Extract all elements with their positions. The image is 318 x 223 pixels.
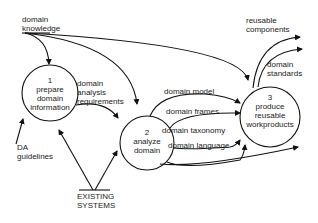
process-1-label: 1 prepare domain information [22,76,78,112]
process-2-line2: domain [120,146,174,155]
da-guidelines-line1: DA [17,143,53,152]
flow-existing-to-2 [95,151,117,190]
domain-frames-label: domain frames [166,107,219,116]
existing-systems-label: EXISTING SYSTEMS [77,192,113,210]
domain-knowledge-label: domain knowledge [22,15,60,33]
requirements-line3: requirements [77,97,124,106]
flow-existing-to-1 [59,130,93,190]
domain-knowledge-line2: knowledge [22,24,60,33]
domain-standards-line1: domain [267,60,302,69]
domain-knowledge-line1: domain [22,15,60,24]
reusable-components-line2: components [246,25,290,34]
existing-systems-line1: EXISTING [77,192,113,201]
reusable-components-line1: reusable [246,16,290,25]
da-guidelines-label: DA guidelines [17,143,53,161]
process-3-line2: reusable [240,111,300,120]
da-guidelines-line2: guidelines [17,152,53,161]
flow-knowledge-to-3 [25,33,248,80]
domain-taxonomy-label: domain taxonomy [162,126,225,135]
domain-standards-line2: standards [267,69,302,78]
process-1-line1: prepare [22,85,78,94]
requirements-line2: analysis [77,88,124,97]
requirements-line1: domain [77,79,124,88]
flow-requirements-1-to-2 [76,104,118,118]
existing-systems-line2: SYSTEMS [77,201,113,210]
process-1-number: 1 [22,76,78,85]
domain-model-label: domain model [164,87,214,96]
process-3-number: 3 [240,93,300,102]
process-1-line2: domain [22,94,78,103]
domain-standards-label: domain standards [267,60,302,78]
flow-knowledge-to-1 [25,33,49,64]
reusable-components-label: reusable components [246,16,290,34]
process-3-line1: produce [240,102,300,111]
domain-language-label: domain language [168,141,229,150]
domain-analysis-requirements-label: domain analysis requirements [77,79,124,106]
process-3-label: 3 produce reusable workproducts [240,93,300,129]
flow-guidelines-to-1 [16,119,23,144]
process-2-line1: analyze [120,137,174,146]
process-1-line3: information [22,103,78,112]
process-3-line3: workproducts [240,120,300,129]
